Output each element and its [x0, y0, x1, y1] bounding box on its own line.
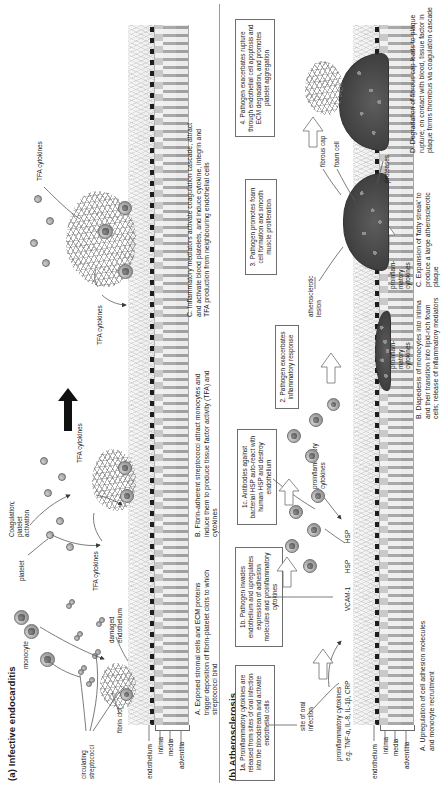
foam-cells [376, 312, 390, 390]
platelet [46, 531, 54, 539]
ruptured-plaque [339, 53, 389, 151]
progression-arrow-a [64, 401, 72, 431]
label-intima-b: intima [382, 737, 390, 754]
box-1c: 1c. Antibodies against bacterial HSP aut… [237, 429, 277, 525]
label-adventitia-a: adventitia [178, 742, 186, 769]
monocyte [24, 624, 39, 639]
streptococcus [69, 599, 75, 605]
wall-layer-brace-a [155, 725, 190, 731]
monocyte [285, 539, 299, 553]
monocyte [14, 610, 29, 625]
label-fibrin-clot: fibrin clot [116, 707, 124, 733]
label-proinflammatory-cytokines-4: proinflam- matory cytokines [389, 255, 412, 289]
label-coagulation-platelet-activation: Coagulation; platelet activation [8, 501, 31, 537]
label-media-a: media [167, 739, 175, 756]
figure-canvas: (a) Infective endocarditis endothelium i… [0, 0, 446, 787]
label-tfa-cytokines-3: TFA cytokines [96, 305, 104, 345]
monocyte [327, 398, 340, 411]
label-circulating-streptococci: circulating streptococci [80, 745, 95, 779]
monocyte-adherent-a5 [98, 224, 113, 239]
caption-b-A: A. Upregulation of cell adhesion molecul… [419, 619, 436, 751]
label-atherosclerotic-lesion: atherosclerotic lesion [307, 265, 322, 317]
label-tfa-cytokines-2: TFA cytokines [76, 423, 84, 463]
monocyte-adherent-a6 [118, 201, 132, 215]
monocyte-adherent-a3 [118, 461, 132, 475]
monocyte-adherent-a4 [118, 264, 133, 279]
platelet [34, 195, 42, 203]
label-platelet: platelet [18, 560, 26, 581]
panel-atherosclerosis: (b) Atherosclerosis endothelium intima m… [223, 0, 446, 787]
platelet [42, 259, 50, 267]
streptococcus [89, 677, 95, 683]
foam-cells [340, 54, 388, 150]
atherosclerotic-plaque [343, 173, 389, 271]
box-1b: 1b. Pathogen invades endothelium and upr… [235, 547, 283, 647]
monocyte [303, 559, 317, 573]
label-cytokine-examples: e.g. TNF-α, IL-8, IL-1β, CRP [344, 681, 352, 761]
monocyte [40, 652, 55, 667]
media-layer-a [163, 25, 176, 725]
platelet [56, 517, 64, 525]
label-vcam1: VCAM-1 [344, 587, 352, 611]
caption-b-C: C. Expansion of 'fatty streak' to produc… [415, 181, 441, 287]
platelet [30, 239, 38, 247]
monocyte-adherent-a1 [120, 688, 133, 701]
streptococcus [77, 631, 83, 637]
monocyte [309, 413, 323, 427]
streptococcus [81, 665, 87, 671]
caption-b-B: B. Diapedesis of monocytes into intima a… [415, 293, 441, 419]
platelet [46, 217, 54, 225]
platelet [44, 489, 52, 497]
box-4: 4. Pathogen exacerbates rupture through … [235, 19, 275, 137]
label-endothelium-b: endothelium [371, 744, 379, 779]
monocyte-adherent-a2 [120, 489, 134, 503]
label-media-b: media [392, 739, 400, 756]
platelet [58, 473, 66, 481]
label-intima-a: intima [157, 737, 165, 754]
monocyte [305, 449, 319, 463]
label-fibrous-cap: fibrous cap [319, 136, 327, 167]
foam-cells [344, 174, 388, 270]
platelet [40, 457, 48, 465]
box-1a: 1a. Proinflammatory cytokines are releas… [235, 665, 275, 781]
label-monocyte: monocyte [22, 641, 30, 669]
monocyte [311, 489, 325, 503]
wall-layer-brace-b [380, 725, 415, 731]
label-tfa-cytokines-1: TFA cytokines [92, 551, 100, 591]
label-proinflammatory-cytokines-3: proinflam- matory cytokines [389, 335, 412, 369]
streptococcus [99, 617, 105, 623]
progression-arrow-a-head [58, 388, 78, 401]
label-proinflammatory-cytokines: proinflammatory cytokines [335, 687, 343, 761]
label-proteases: proteases [383, 155, 391, 183]
fibrin-platelet-clot-a1 [100, 663, 136, 709]
label-site-of-oral-infection: site of oral infection [299, 687, 314, 731]
vessel-wall-a [128, 25, 188, 725]
monocyte [307, 523, 321, 537]
thrombus [305, 61, 343, 115]
label-hsp-1: HSP [344, 560, 352, 573]
caption-a-B: B. Fibrin-adherent streptococci attract … [194, 367, 220, 537]
label-tfa-cytokines-4: TFA cytokines [36, 141, 44, 181]
label-damaged-endothelium: damaged endothelium [108, 608, 123, 643]
panel-infective-endocarditis: (a) Infective endocarditis endothelium i… [0, 0, 223, 787]
monocyte [287, 429, 301, 443]
box-2: 2. Pathogen exacerbates inflammatory res… [275, 325, 299, 409]
label-hsp-2: HSP [344, 530, 352, 543]
box-3: 3. Pathogen promotes foam cell formation… [245, 179, 277, 275]
caption-a-A: A. Exposed stromal cells and ECM protein… [194, 565, 220, 715]
panel-divider [219, 4, 220, 783]
platelet [66, 543, 74, 551]
label-adventitia-b: adventitia [403, 742, 411, 769]
monocyte [289, 505, 303, 519]
caption-a-C: C. Inflammatory mediators activate coagu… [186, 121, 212, 317]
label-endothelium-a: endothelium [146, 744, 154, 779]
streptococcus [95, 649, 101, 655]
panel-a-title: (a) Infective endocarditis [6, 666, 17, 781]
caption-b-D: D. Degradation of fibrous cap leads to p… [409, 7, 435, 153]
